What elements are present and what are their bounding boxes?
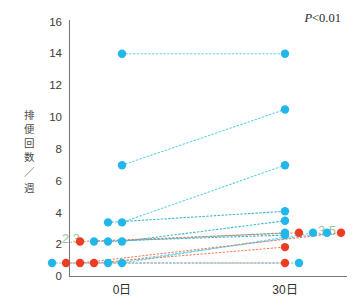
x-tick-day30: 30日 xyxy=(272,283,297,297)
point-day0-subject-8 xyxy=(76,237,84,245)
point-day30-subject-12 xyxy=(337,229,345,237)
point-day30-subject-2 xyxy=(281,105,289,113)
point-day30-subject-7 xyxy=(281,231,289,239)
point-day0-subject-5 xyxy=(118,237,126,245)
point-day30-subject-5 xyxy=(281,217,289,225)
y-tick-0: 0 xyxy=(56,270,62,282)
connector-subject-2 xyxy=(122,110,285,166)
point-day0-subject-6 xyxy=(104,237,112,245)
point-day30-subject-9 xyxy=(309,229,317,237)
y-axis-title-char-3: 数 xyxy=(24,151,35,163)
point-day0-subject-12 xyxy=(76,259,84,267)
y-tick-12: 12 xyxy=(49,79,62,91)
y-tick-14: 14 xyxy=(49,47,62,59)
y-tick-6: 6 xyxy=(56,175,62,187)
connector-subject-12 xyxy=(80,233,341,263)
point-day0-subject-13 xyxy=(62,259,70,267)
connector-subject-4 xyxy=(108,211,285,222)
y-axis-title-char-5: 週 xyxy=(24,182,35,194)
y-axis-title-char-1: 便 xyxy=(24,123,35,135)
y-axis-ticks: 16 14 12 10 8 6 4 2 0 xyxy=(49,16,62,282)
point-day30-subject-10 xyxy=(323,229,331,237)
point-day30-subject-1 xyxy=(281,50,289,58)
x-tick-day0: 0日 xyxy=(113,283,132,297)
point-day30-subject-14 xyxy=(295,259,303,267)
y-tick-4: 4 xyxy=(56,207,63,219)
y-axis-title-char-0: 排 xyxy=(24,109,35,121)
point-day0-subject-3 xyxy=(118,218,126,226)
point-day0-subject-14 xyxy=(48,259,56,267)
point-day30-subject-3 xyxy=(281,161,289,169)
point-day0-subject-4 xyxy=(104,218,112,226)
p-value-symbol: P xyxy=(303,11,312,25)
y-tick-8: 8 xyxy=(56,143,62,155)
y-tick-10: 10 xyxy=(49,111,62,123)
point-day0-subject-2 xyxy=(118,161,126,169)
y-axis-title-char-2: 回 xyxy=(24,137,34,149)
point-day30-subject-8 xyxy=(295,229,303,237)
y-tick-16: 16 xyxy=(49,16,62,28)
y-axis-title: 排 便 回 数 ／ 週 xyxy=(24,109,35,194)
bowel-movement-slopegraph: 16 14 12 10 8 6 4 2 0 排 便 回 数 ／ 週 0日 30日… xyxy=(0,0,363,308)
data-points xyxy=(48,50,345,268)
y-axis-title-char-4: ／ xyxy=(24,166,35,178)
point-day0-subject-1 xyxy=(118,50,126,58)
chart-svg: 16 14 12 10 8 6 4 2 0 排 便 回 数 ／ 週 0日 30日… xyxy=(0,0,363,308)
point-day30-subject-4 xyxy=(281,207,289,215)
p-value-annotation: P<0.01 xyxy=(303,11,341,25)
point-day30-subject-11 xyxy=(281,243,289,251)
point-day0-subject-7 xyxy=(90,237,98,245)
point-day0-subject-11 xyxy=(90,259,98,267)
p-value-number: <0.01 xyxy=(312,11,341,25)
point-day30-subject-13 xyxy=(281,259,289,267)
point-day0-subject-10 xyxy=(104,259,112,267)
point-day0-subject-9 xyxy=(118,259,126,267)
connector-subject-3 xyxy=(122,165,285,222)
